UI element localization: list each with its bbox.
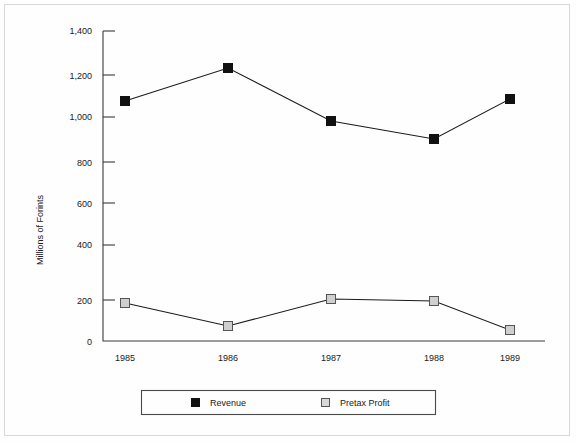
pretax-profit-marker-1986 bbox=[224, 322, 233, 331]
y-tick-label-1400: 1,400 bbox=[69, 26, 92, 36]
legend-entry-pretax-profit: Pretax Profit bbox=[322, 398, 391, 408]
pretax-profit-marker-1988 bbox=[430, 297, 439, 306]
x-tick-label-1986: 1986 bbox=[218, 353, 238, 363]
y-tick-label-1200: 1,200 bbox=[69, 71, 92, 81]
revenue-marker-1988 bbox=[430, 135, 439, 144]
x-tick-label-1988: 1988 bbox=[424, 353, 444, 363]
axis-lines bbox=[103, 31, 545, 341]
y-tick-label-400: 400 bbox=[77, 240, 92, 250]
legend-border bbox=[142, 391, 436, 415]
open-square-icon bbox=[322, 399, 330, 407]
y-tick-label-1000: 1,000 bbox=[69, 112, 92, 122]
filled-square-icon bbox=[192, 399, 200, 407]
x-tick-label-1987: 1987 bbox=[321, 353, 341, 363]
pretax-profit-series-line bbox=[125, 299, 510, 330]
pretax-profit-marker-1987 bbox=[327, 295, 336, 304]
pretax-profit-marker-1985 bbox=[121, 299, 130, 308]
y-tick-label-800: 800 bbox=[77, 158, 92, 168]
pretax-profit-marker-1989 bbox=[506, 326, 515, 335]
y-tick-label-0: 0 bbox=[87, 337, 92, 347]
revenue-marker-1986 bbox=[224, 64, 233, 73]
chart-legend: Revenue Pretax Profit bbox=[142, 391, 436, 415]
y-axis-title: Millions of Forints bbox=[35, 194, 45, 265]
revenue-series-line bbox=[125, 68, 510, 139]
legend-label-revenue: Revenue bbox=[210, 398, 246, 408]
y-tick-label-200: 200 bbox=[77, 296, 92, 306]
x-tick-label-1989: 1989 bbox=[500, 353, 520, 363]
legend-entry-revenue: Revenue bbox=[192, 398, 247, 408]
y-tick-label-600: 600 bbox=[77, 199, 92, 209]
legend-label-pretax-profit: Pretax Profit bbox=[340, 398, 390, 408]
revenue-marker-1985 bbox=[121, 97, 130, 106]
x-tick-label-1985: 1985 bbox=[115, 353, 135, 363]
line-chart: Millions of Forints 1,400 1,200 1,000 80… bbox=[0, 0, 576, 443]
chart-figure: Millions of Forints 1,400 1,200 1,000 80… bbox=[0, 0, 576, 443]
revenue-marker-1989 bbox=[506, 95, 515, 104]
revenue-marker-1987 bbox=[327, 117, 336, 126]
